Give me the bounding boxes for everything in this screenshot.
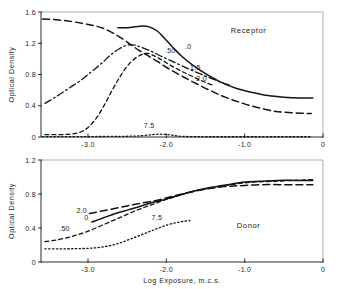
panel-receptor: 00.40.81.21.6-3.0-2.0-1.00Optical Densit… xyxy=(7,9,325,148)
panel-title-receptor: Receptor xyxy=(231,26,267,35)
x-tick-label: -3.0 xyxy=(81,141,94,148)
curve-label-receptor-1.5: 1.5 xyxy=(190,64,201,71)
curve-label-donor-.50: .50 xyxy=(59,225,70,232)
x-tick-label: 0 xyxy=(321,266,325,273)
panel-donor: 00.40.81.2-3.0-2.0-1.00Optical DensityLo… xyxy=(7,157,325,285)
curve-receptor-7.5 xyxy=(43,134,312,137)
panel-title-donor: Donor xyxy=(237,221,261,230)
figure-caption xyxy=(6,282,336,289)
curve-label-receptor-7.5: 7.5 xyxy=(144,122,155,129)
curve-label-donor-7.5: 7.5 xyxy=(152,214,163,221)
x-tick-label: -3.0 xyxy=(81,266,94,273)
plot-frame xyxy=(41,12,323,137)
curve-receptor-0 xyxy=(118,26,313,98)
x-tick-label: 0 xyxy=(321,141,325,148)
y-tick-label: 0.4 xyxy=(25,102,36,109)
curve-receptor-2.0 xyxy=(43,19,312,114)
x-tick-label: -1.0 xyxy=(238,141,251,148)
x-tick-label: -2.0 xyxy=(160,266,173,273)
y-tick-label: 0 xyxy=(32,259,36,266)
curve-label-receptor-0: .0 xyxy=(185,43,191,50)
y-axis-title: Optical Density xyxy=(7,183,16,239)
dual-panel-line-chart: 00.40.81.21.6-3.0-2.0-1.00Optical Densit… xyxy=(0,0,341,289)
y-tick-label: 0.4 xyxy=(25,225,36,232)
curve-label-receptor-2.0: 2.0 xyxy=(196,75,207,82)
figure-container: 00.40.81.21.6-3.0-2.0-1.00Optical Densit… xyxy=(0,0,341,289)
y-axis-title: Optical Density xyxy=(7,47,16,103)
y-tick-label: 1.2 xyxy=(25,157,36,164)
curve-label-donor-2.0: 2.0 xyxy=(76,207,87,214)
x-tick-label: -1.0 xyxy=(238,266,251,273)
curve-label-donor-0: 0 xyxy=(84,214,88,221)
y-tick-label: 1.2 xyxy=(25,40,36,47)
y-tick-label: 0.8 xyxy=(25,71,36,78)
curve-label-receptor-.50: .50 xyxy=(165,47,176,54)
x-tick-label: -2.0 xyxy=(160,141,173,148)
y-tick-label: 0 xyxy=(32,134,36,141)
y-tick-label: 1.6 xyxy=(25,9,36,16)
y-tick-label: 0.8 xyxy=(25,191,36,198)
curve-receptor-1.5 xyxy=(45,53,213,134)
